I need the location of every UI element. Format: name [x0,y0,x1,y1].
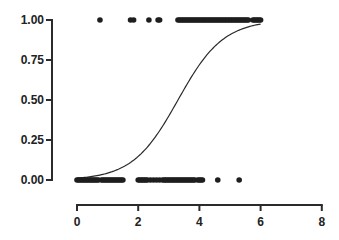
x-axis: 02468 [74,205,326,229]
data-points [74,17,263,183]
y-tick-label: 0.25 [21,133,45,147]
logistic-fit-curve [77,24,261,178]
logistic-regression-chart: 0.000.250.500.751.00 02468 [0,0,339,240]
data-point [236,177,242,183]
data-point [131,17,137,23]
y-tick-label: 0.00 [21,173,45,187]
x-tick-label: 8 [318,215,325,229]
y-axis: 0.000.250.500.751.00 [21,13,52,187]
data-point [120,177,126,183]
x-tick-label: 6 [257,215,264,229]
data-point [146,17,152,23]
x-tick-label: 4 [196,215,203,229]
x-tick-label: 0 [74,215,81,229]
x-tick-label: 2 [135,215,142,229]
fit-curve-path [77,24,261,178]
data-point [258,17,264,23]
y-tick-label: 0.75 [21,53,45,67]
y-tick-label: 0.50 [21,93,45,107]
y-tick-label: 1.00 [21,13,45,27]
data-point [97,17,103,23]
data-point [200,177,206,183]
data-point [157,17,163,23]
data-point [215,177,221,183]
